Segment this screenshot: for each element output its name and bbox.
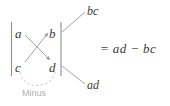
- matrix-entry-d: d: [49, 61, 56, 74]
- matrix-entry-b: b: [49, 27, 56, 40]
- callout-label-bc: bc: [87, 5, 98, 17]
- figure-canvas: a b c d bc ad Minus = ad − bc: [0, 0, 170, 106]
- matrix-entry-c: c: [15, 61, 21, 74]
- determinant-equation: = ad − bc: [100, 42, 156, 55]
- diagonal-arrow-a-to-d: [25, 35, 50, 60]
- leader-line-ad: [62, 66, 85, 84]
- minus-annotation-label: Minus: [22, 89, 46, 98]
- leader-line-bc: [62, 12, 85, 32]
- callout-label-ad: ad: [87, 79, 99, 91]
- diagonal-arrow-c-to-b: [25, 33, 48, 62]
- matrix-entry-a: a: [15, 27, 22, 40]
